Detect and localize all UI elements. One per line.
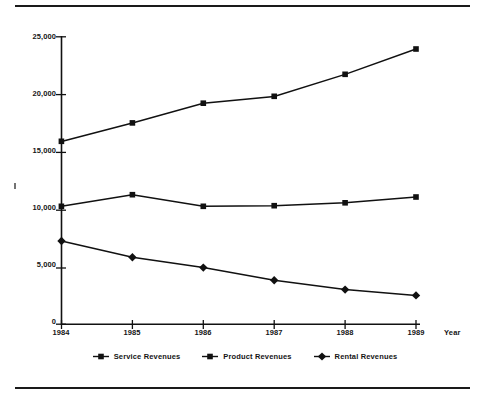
legend-marker-diamond-icon <box>314 352 330 361</box>
data-point-marker <box>270 276 278 284</box>
series-rental-revenues <box>57 237 420 300</box>
data-point-marker <box>271 203 277 209</box>
series-service-revenues <box>59 46 419 144</box>
legend-label-rental-revenues: Rental Revenues <box>335 352 398 361</box>
data-point-marker <box>342 200 348 206</box>
data-point-marker <box>271 94 277 100</box>
data-point-marker <box>201 100 207 106</box>
chart-legend: Service Revenues Product Revenues Rental… <box>60 348 430 364</box>
data-point-marker <box>413 194 419 200</box>
legend-entry-product-revenues: Product Revenues <box>202 352 291 361</box>
legend-label-service-revenues: Service Revenues <box>114 352 181 361</box>
data-point-marker <box>130 192 136 198</box>
legend-entry-service-revenues: Service Revenues <box>93 352 181 361</box>
legend-marker-square-icon <box>202 352 218 361</box>
data-point-marker <box>199 263 207 271</box>
legend-label-product-revenues: Product Revenues <box>223 352 291 361</box>
data-point-marker <box>342 72 348 78</box>
data-point-marker <box>201 204 207 210</box>
data-point-marker <box>128 253 136 261</box>
data-point-marker <box>412 291 420 299</box>
data-point-marker <box>57 237 65 245</box>
data-point-marker <box>341 285 349 293</box>
series-product-revenues <box>59 192 419 209</box>
data-point-marker <box>413 46 419 52</box>
data-point-marker <box>59 204 65 210</box>
data-point-marker <box>59 139 65 145</box>
legend-entry-rental-revenues: Rental Revenues <box>314 352 398 361</box>
plot-area <box>0 0 485 404</box>
legend-marker-square-icon <box>93 352 109 361</box>
chart-figure: 25,000 20,000 15,000 10,000 5,000 0 1984… <box>0 0 485 404</box>
data-point-marker <box>130 120 136 126</box>
